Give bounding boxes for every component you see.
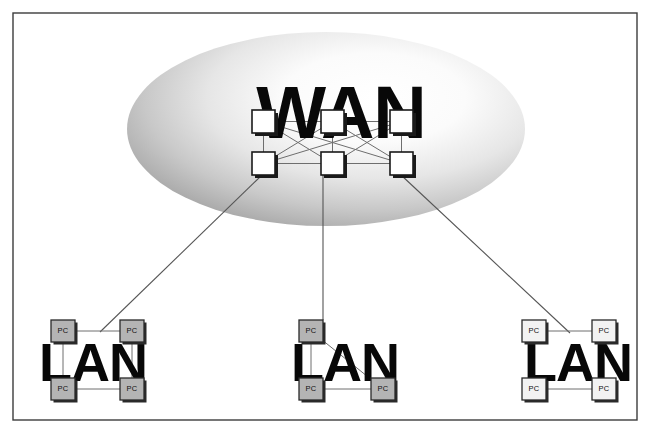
wan-router-1 bbox=[252, 110, 275, 133]
wan-router-4 bbox=[252, 152, 275, 175]
lan-middle-pc-3-label: PC bbox=[378, 384, 389, 393]
lan-right-pc-1-label: PC bbox=[529, 326, 540, 335]
lan-middle-pc-1-label: PC bbox=[306, 326, 317, 335]
lan-left-pc-4-label: PC bbox=[127, 384, 138, 393]
lan-right-pc-3-label: PC bbox=[529, 384, 540, 393]
network-topology-diagram: WAN LANLANLAN PCPCPCPCPCPCPCPCPCPCPC bbox=[0, 0, 650, 433]
diagram-canvas: WAN LANLANLAN PCPCPCPCPCPCPCPCPCPCPC bbox=[0, 0, 650, 433]
lan-left-pc-2-label: PC bbox=[127, 326, 138, 335]
uplink-left bbox=[100, 175, 262, 332]
wan-router-6 bbox=[390, 152, 413, 175]
lan-right-pc-2-label: PC bbox=[599, 326, 610, 335]
lan-right-pc-4-label: PC bbox=[599, 384, 610, 393]
lan-middle-pc-2-label: PC bbox=[306, 384, 317, 393]
uplink-right bbox=[401, 175, 570, 333]
lan-left-pc-3-label: PC bbox=[58, 384, 69, 393]
wan-router-3 bbox=[390, 110, 413, 133]
wan-router-2 bbox=[321, 110, 344, 133]
lan-left-pc-1-label: PC bbox=[58, 326, 69, 335]
wan-router-5 bbox=[321, 152, 344, 175]
